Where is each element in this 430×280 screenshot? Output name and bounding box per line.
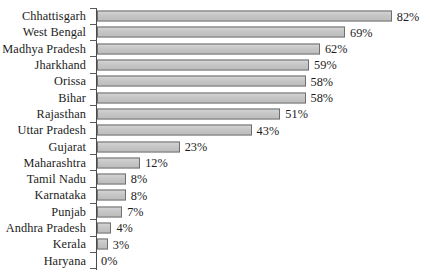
axis-tick — [90, 138, 97, 139]
axis-tick — [90, 268, 97, 269]
axis-tick — [90, 154, 97, 155]
horizontal-bar-chart: Chhattisgarh82%West Bengal69%Madhya Prad… — [0, 0, 430, 280]
bar[interactable] — [97, 43, 320, 54]
category-label: Maharashtra — [23, 157, 86, 169]
bar-track: 8% — [97, 190, 147, 201]
chart-rows: Chhattisgarh82%West Bengal69%Madhya Prad… — [0, 8, 430, 269]
bar[interactable] — [97, 206, 122, 217]
category-label: Orissa — [54, 75, 86, 87]
bar[interactable] — [97, 125, 252, 136]
bar[interactable] — [97, 60, 309, 71]
chart-row: Bihar58% — [0, 89, 430, 105]
bar[interactable] — [97, 27, 345, 38]
bar-value-label: 7% — [127, 206, 143, 218]
bar[interactable] — [97, 76, 306, 87]
category-label: Kerala — [53, 238, 86, 250]
bar[interactable] — [97, 190, 126, 201]
axis-tick — [90, 219, 97, 220]
chart-row: Andhra Pradesh4% — [0, 220, 430, 236]
bar-track: 62% — [97, 43, 347, 54]
category-label: Punjab — [51, 206, 86, 218]
bar-value-label: 8% — [131, 189, 147, 201]
category-label: Rajasthan — [37, 108, 86, 120]
category-label: Bihar — [58, 91, 86, 103]
bar[interactable] — [97, 11, 392, 22]
chart-row: Orissa58% — [0, 73, 430, 89]
category-label: Gujarat — [48, 140, 86, 152]
bar-value-label: 8% — [131, 173, 147, 185]
category-label: Jharkhand — [35, 59, 86, 71]
axis-tick — [90, 203, 97, 204]
axis-tick — [90, 8, 97, 9]
chart-row: Gujarat23% — [0, 138, 430, 154]
bar-value-label: 43% — [257, 124, 280, 136]
chart-row: Chhattisgarh82% — [0, 8, 430, 24]
axis-tick — [90, 89, 97, 90]
axis-tick — [90, 187, 97, 188]
chart-row: Punjab7% — [0, 204, 430, 220]
bar[interactable] — [97, 92, 306, 103]
bar-track: 58% — [97, 76, 333, 87]
category-label: Andhra Pradesh — [6, 222, 86, 234]
bar-track: 59% — [97, 60, 337, 71]
chart-row: Kerala3% — [0, 236, 430, 252]
bar[interactable] — [97, 157, 140, 168]
bar[interactable] — [97, 239, 108, 250]
bar-value-label: 51% — [285, 108, 308, 120]
bar-value-label: 58% — [311, 91, 334, 103]
bar-value-label: 23% — [185, 140, 208, 152]
category-label: Karnataka — [35, 189, 86, 201]
bar[interactable] — [97, 108, 280, 119]
axis-tick — [90, 122, 97, 123]
category-label: Uttar Pradesh — [17, 124, 86, 136]
chart-row: Madhya Pradesh62% — [0, 41, 430, 57]
bar-track: 23% — [97, 141, 207, 152]
axis-tick — [90, 170, 97, 171]
chart-row: Karnataka8% — [0, 187, 430, 203]
chart-row: Maharashtra12% — [0, 155, 430, 171]
bar-track: 7% — [97, 206, 144, 217]
chart-row: Rajasthan51% — [0, 106, 430, 122]
chart-row: West Bengal69% — [0, 24, 430, 40]
bar[interactable] — [97, 141, 180, 152]
bar-value-label: 62% — [325, 43, 348, 55]
bar-track: 58% — [97, 92, 333, 103]
bar-track: 51% — [97, 108, 308, 119]
category-label: Haryana — [44, 254, 86, 266]
axis-tick — [90, 105, 97, 106]
chart-row: Uttar Pradesh43% — [0, 122, 430, 138]
bar-value-label: 4% — [116, 222, 132, 234]
category-label: Chhattisgarh — [22, 10, 86, 22]
category-label: Tamil Nadu — [27, 173, 86, 185]
bar-track: 4% — [97, 223, 133, 234]
bar-track: 12% — [97, 157, 168, 168]
chart-row: Haryana0% — [0, 252, 430, 268]
chart-row: Jharkhand59% — [0, 57, 430, 73]
bar-value-label: 82% — [397, 10, 420, 22]
bar[interactable] — [97, 174, 126, 185]
axis-tick — [90, 56, 97, 57]
axis-tick — [90, 24, 97, 25]
category-label: Madhya Pradesh — [2, 43, 86, 55]
bar-track: 3% — [97, 239, 129, 250]
axis-tick — [90, 252, 97, 253]
bar-value-label: 3% — [113, 238, 129, 250]
category-label: West Bengal — [23, 26, 86, 38]
chart-row: Tamil Nadu8% — [0, 171, 430, 187]
bar[interactable] — [97, 223, 111, 234]
bar-track: 8% — [97, 174, 147, 185]
axis-tick — [90, 40, 97, 41]
bar-track: 69% — [97, 27, 373, 38]
axis-tick — [90, 73, 97, 74]
bar-value-label: 59% — [314, 59, 337, 71]
bar-value-label: 69% — [350, 26, 373, 38]
bar-track: 43% — [97, 125, 279, 136]
bar-track: 82% — [97, 11, 419, 22]
bar-value-label: 58% — [311, 75, 334, 87]
axis-tick — [90, 236, 97, 237]
bar-value-label: 0% — [101, 254, 117, 266]
bar-value-label: 12% — [145, 157, 168, 169]
bar-track: 0% — [97, 255, 117, 266]
